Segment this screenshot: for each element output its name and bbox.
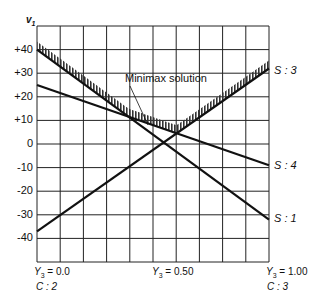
minimax-annotation: Minimax solution (125, 72, 207, 84)
y-tick-label: +30 (14, 66, 33, 78)
x-tick-0-c: C : 2 (36, 281, 57, 292)
grid (37, 26, 269, 262)
y-tick-label: +20 (14, 90, 33, 102)
y-tick-label: -40 (17, 231, 33, 243)
y-tick-label: -30 (17, 208, 33, 220)
y-tick-label: 0 (27, 137, 33, 149)
series-label-s1: S : 1 (274, 212, 297, 224)
x-tick-0: Y3 = 0.0 (34, 266, 70, 279)
y-tick-label: -20 (17, 184, 33, 196)
y-axis-label: v1 (26, 14, 35, 27)
x-tick-100: Y3 = 1.00 (266, 266, 307, 279)
x-tick-50: Y3 = 0.50 (152, 266, 193, 279)
y-tick-label: +10 (14, 113, 33, 125)
y-tick-label: -10 (17, 161, 33, 173)
series-label-s4: S : 4 (274, 159, 297, 171)
series-label-s3: S : 3 (274, 64, 297, 76)
y-tick-label: +40 (14, 43, 33, 55)
x-tick-100-c: C : 3 (267, 281, 288, 292)
chart-svg (0, 0, 318, 298)
